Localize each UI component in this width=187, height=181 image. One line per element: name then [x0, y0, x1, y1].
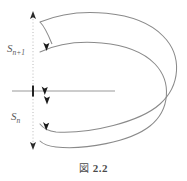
- segment-label-s-n-subscript: n: [17, 116, 21, 125]
- flow-arrowheads-group: [42, 43, 50, 131]
- axis-arrow-down-icon: [30, 142, 36, 150]
- segment-label-s-n-plus-1-base: S: [7, 42, 13, 54]
- flow-arrow-down-icon-3: [44, 96, 50, 105]
- figure-caption: 図 2.2: [0, 160, 187, 175]
- flow-arrow-down-icon-4: [43, 122, 49, 131]
- vertical-measure-axis: [30, 11, 36, 150]
- figure-drawing-canvas: [0, 0, 187, 181]
- figure-caption-number: 2.2: [93, 162, 108, 174]
- segment-label-s-n-base: S: [11, 110, 17, 122]
- segment-label-s-n-plus-1: Sn+1: [7, 43, 25, 54]
- segment-label-s-n: Sn: [11, 111, 20, 122]
- segment-label-s-n-plus-1-subscript: n+1: [13, 48, 26, 57]
- figure-container: Sn+1 Sn 図 2.2: [0, 0, 187, 181]
- outer-loop-lower-tail: [40, 22, 52, 44]
- figure-caption-glyph: 図: [79, 160, 90, 175]
- outer-loop-curve: [40, 13, 177, 133]
- axis-arrow-up-icon: [30, 11, 36, 19]
